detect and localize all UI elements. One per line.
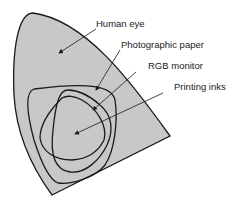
- gamut-diagram: [0, 0, 231, 208]
- printing-inks-label: Printing inks: [174, 82, 226, 92]
- human-eye-label: Human eye: [96, 19, 145, 29]
- photographic-paper-label: Photographic paper: [121, 40, 204, 50]
- rgb-monitor-label: RGB monitor: [148, 61, 203, 71]
